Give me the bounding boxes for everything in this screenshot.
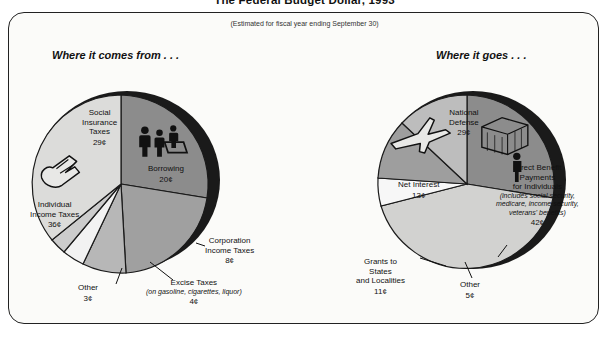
label-value: 36¢ — [30, 220, 79, 230]
label-line: Income Taxes — [205, 246, 254, 255]
label-other-income: Other 3¢ — [78, 283, 98, 303]
label-net-interest: Net Interest 13¢ — [398, 180, 439, 200]
label-line: Individual — [38, 200, 72, 209]
page-title: The Federal Budget Dollar, 1993 — [0, 0, 609, 6]
label-value: 3¢ — [78, 294, 98, 304]
label-value: 8¢ — [205, 256, 254, 266]
label-line: Social — [89, 108, 111, 117]
label-line: Taxes — [89, 127, 110, 136]
label-line: and Localities — [356, 276, 405, 285]
label-individual-income-taxes: Individual Income Taxes 36¢ — [30, 200, 79, 230]
label-note: medicare, income security, — [496, 200, 579, 208]
label-line: Defense — [449, 118, 479, 127]
label-social-insurance-taxes: Social Insurance Taxes 29¢ — [82, 108, 117, 147]
label-line: Other — [460, 280, 480, 289]
label-value: 11¢ — [356, 287, 405, 297]
label-value: 20¢ — [148, 175, 184, 185]
label-line: Payments — [520, 173, 556, 182]
label-value: 13¢ — [398, 191, 439, 201]
slice-borrowing — [121, 184, 207, 273]
section-heading-income: Where it comes from . . . — [52, 49, 179, 61]
label-other-outlays: Other 5¢ — [460, 280, 480, 300]
label-value: 5¢ — [460, 291, 480, 301]
label-line: Direct Benefit — [513, 163, 561, 172]
label-line: Excise Taxes — [171, 278, 218, 287]
label-borrowing: Borrowing 20¢ — [148, 164, 184, 184]
subtitle: (Estimated for fiscal year ending Septem… — [0, 20, 609, 27]
label-value: 29¢ — [449, 128, 479, 138]
label-line: Net Interest — [398, 180, 439, 189]
label-value: 42¢ — [496, 218, 579, 228]
label-line: Insurance — [82, 118, 117, 127]
budget-dollar-infographic: The Federal Budget Dollar, 1993 (Estimat… — [0, 0, 609, 346]
label-line: National — [449, 108, 478, 117]
label-line: for Individuals — [513, 182, 562, 191]
label-line: Borrowing — [148, 164, 184, 173]
label-line: States — [369, 267, 392, 276]
label-note: veterans' benefits) — [496, 209, 579, 217]
label-note: (on gasoline, cigarettes, liquor) — [146, 288, 242, 296]
label-line: Grants to — [364, 257, 397, 266]
label-national-defense: National Defense 29¢ — [449, 108, 479, 138]
label-note: (includes social security, — [496, 192, 579, 200]
label-value: 29¢ — [82, 138, 117, 148]
section-heading-outlays: Where it goes . . . — [436, 49, 526, 61]
label-line: Corporation — [209, 236, 251, 245]
label-direct-benefit-payments: Direct Benefit Payments for Individuals … — [496, 163, 579, 228]
label-grants-to-states: Grants to States and Localities 11¢ — [356, 257, 405, 296]
label-corporation-income-taxes: Corporation Income Taxes 8¢ — [205, 236, 254, 266]
label-excise-taxes: Excise Taxes (on gasoline, cigarettes, l… — [146, 278, 242, 307]
label-line: Income Taxes — [30, 210, 79, 219]
label-value: 4¢ — [146, 297, 242, 307]
label-line: Other — [78, 283, 98, 292]
